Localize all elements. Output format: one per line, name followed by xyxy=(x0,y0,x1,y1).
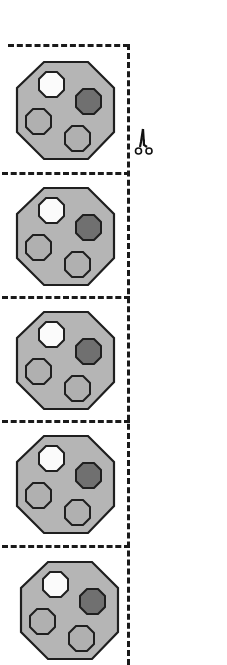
light-gem-left xyxy=(26,235,51,260)
cut-line-vertical xyxy=(127,44,130,665)
cut-line-top xyxy=(8,44,129,47)
light-gem-bottom xyxy=(65,500,90,525)
light-gem-left xyxy=(26,359,51,384)
dark-gem xyxy=(76,89,101,114)
dark-gem xyxy=(76,339,101,364)
light-gem-bottom xyxy=(65,252,90,277)
white-gem xyxy=(39,198,64,223)
light-gem-bottom xyxy=(65,376,90,401)
cut-line-2 xyxy=(2,296,130,299)
octagon-token-card xyxy=(14,556,126,665)
dark-gem xyxy=(80,589,105,614)
white-gem xyxy=(39,446,64,471)
light-gem-left xyxy=(30,609,55,634)
cut-line-3 xyxy=(2,420,130,423)
octagon-token-card xyxy=(10,182,122,292)
cut-line-4 xyxy=(2,545,130,548)
white-gem xyxy=(39,72,64,97)
light-gem-bottom xyxy=(65,126,90,151)
cutout-sheet xyxy=(0,0,227,665)
light-gem-bottom xyxy=(69,626,94,651)
dark-gem xyxy=(76,463,101,488)
octagon-token-card xyxy=(10,56,122,166)
cut-line-1 xyxy=(2,172,130,175)
white-gem xyxy=(39,322,64,347)
octagon-token-card xyxy=(10,306,122,416)
white-gem xyxy=(43,572,68,597)
light-gem-left xyxy=(26,483,51,508)
light-gem-left xyxy=(26,109,51,134)
dark-gem xyxy=(76,215,101,240)
octagon-token-card xyxy=(10,430,122,540)
scissors-icon xyxy=(134,128,154,158)
